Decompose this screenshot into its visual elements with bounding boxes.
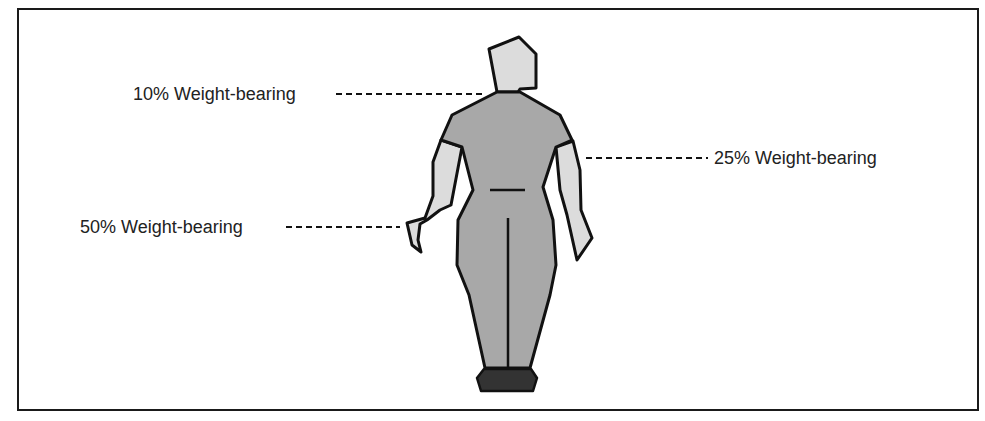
label-25-weight-bearing: 25% Weight-bearing (714, 148, 877, 168)
torso-shape (441, 92, 572, 368)
label-50-weight-bearing: 50% Weight-bearing (80, 217, 243, 237)
feet-platform-shape (477, 369, 537, 391)
label-10-weight-bearing: 10% Weight-bearing (133, 84, 296, 104)
human-figure-illustration (0, 0, 985, 421)
left-arm-shape (407, 140, 462, 252)
head-shape (489, 37, 536, 92)
